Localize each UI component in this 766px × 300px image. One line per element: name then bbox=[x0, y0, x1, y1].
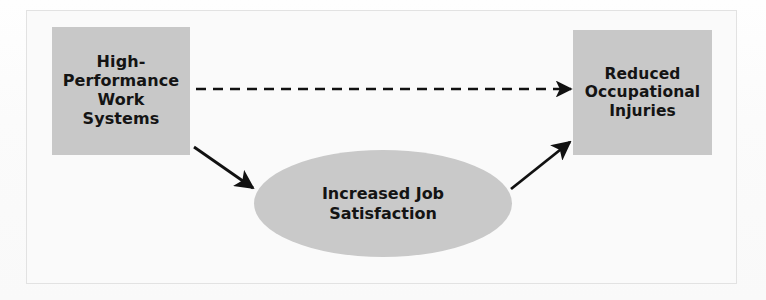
figure-container: High- Performance Work Systems Increased… bbox=[0, 0, 766, 300]
node-increased-job-satisfaction: Increased Job Satisfaction bbox=[254, 150, 512, 257]
node-label-reduced-occupational-injuries: Reduced Occupational Injuries bbox=[581, 65, 705, 120]
node-high-performance-work-systems: High- Performance Work Systems bbox=[52, 27, 190, 155]
node-label-high-performance-work-systems: High- Performance Work Systems bbox=[59, 53, 184, 129]
node-reduced-occupational-injuries: Reduced Occupational Injuries bbox=[573, 30, 712, 155]
node-label-increased-job-satisfaction: Increased Job Satisfaction bbox=[318, 184, 448, 222]
